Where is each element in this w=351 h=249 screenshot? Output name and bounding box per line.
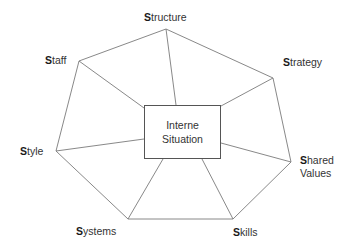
spoke-systems (128, 159, 163, 219)
spoke-strategy (221, 78, 273, 106)
center-label-line1: Interne (166, 118, 199, 132)
label-style: Style (20, 145, 43, 158)
spoke-style (56, 139, 144, 151)
label-strategy: Strategy (283, 56, 322, 69)
label-staff: Staff (45, 54, 66, 67)
center-label-line2: Situation (162, 132, 203, 146)
label-structure: Structure (144, 11, 187, 24)
spoke-shared-values (221, 143, 291, 162)
spoke-skills (202, 159, 233, 219)
spoke-structure (166, 29, 176, 105)
center-box-interne-situation: Interne Situation (144, 105, 221, 159)
label-shared-values: SharedValues (300, 154, 334, 180)
spoke-staff (79, 61, 144, 108)
label-skills: Skills (233, 226, 258, 239)
label-systems: Systems (76, 225, 116, 238)
